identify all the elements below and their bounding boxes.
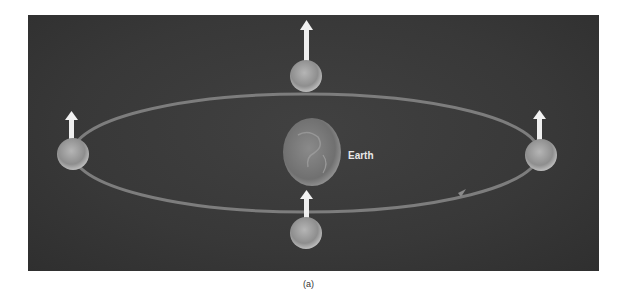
- moon-right: [525, 110, 557, 171]
- earth-label: Earth: [348, 150, 374, 161]
- figure-caption: (a): [0, 279, 617, 289]
- moon-bottom: [290, 190, 322, 249]
- moon-left: [57, 111, 89, 170]
- orbit-diagram: [28, 15, 599, 271]
- earth: [283, 118, 341, 186]
- moon-top: [290, 20, 322, 92]
